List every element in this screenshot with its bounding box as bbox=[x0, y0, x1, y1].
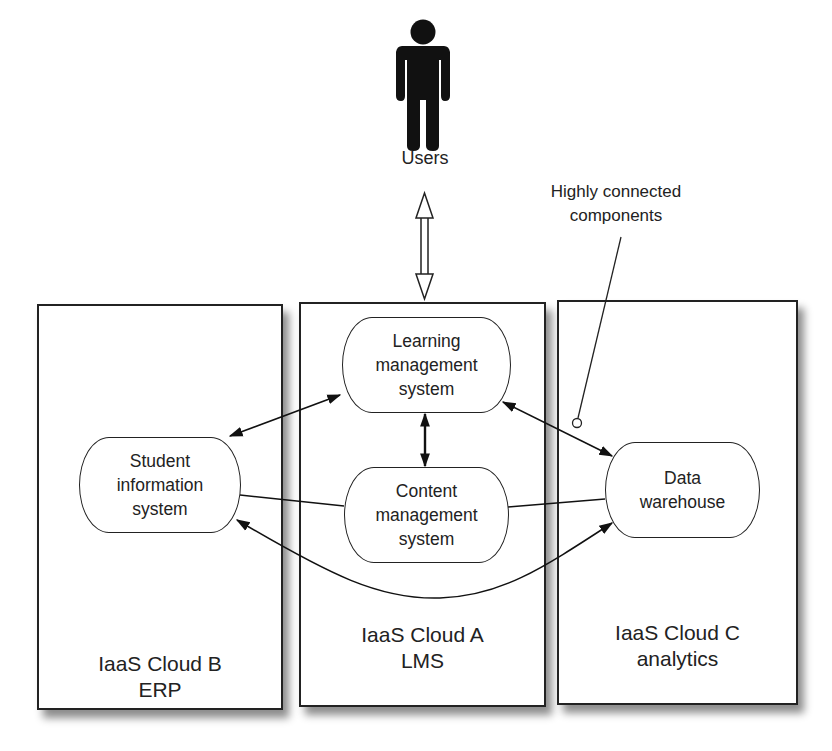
connectors-layer bbox=[0, 0, 832, 751]
edge-lms-dw bbox=[503, 402, 612, 456]
person-icon bbox=[396, 20, 450, 152]
edge-cms-dw bbox=[508, 499, 605, 507]
annotation-leader-line bbox=[578, 237, 621, 418]
edge-sis-cms bbox=[240, 495, 344, 506]
architecture-diagram: IaaS Cloud B ERP IaaS Cloud A LMS IaaS C… bbox=[0, 0, 832, 751]
annotation-anchor-icon bbox=[573, 419, 582, 428]
edge-lms-sis bbox=[230, 395, 340, 436]
users-lms-double-arrow bbox=[416, 193, 433, 299]
edge-sis-dw-curve bbox=[237, 520, 612, 598]
